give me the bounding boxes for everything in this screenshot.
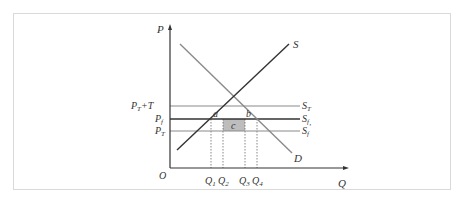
area-a-label: a — [213, 108, 218, 119]
demand-label: D — [293, 152, 302, 164]
q2-label: Q2 — [218, 175, 229, 188]
area-b-label: b — [246, 108, 251, 119]
q1-label: Q1 — [205, 175, 216, 188]
x-axis-arrow-icon — [343, 166, 349, 170]
price-label-pt: PT — [154, 125, 166, 138]
x-axis-label: Q — [338, 177, 346, 189]
st-label: ST — [302, 100, 312, 113]
y-axis-label: P — [156, 23, 164, 35]
q4-label: Q4 — [252, 175, 263, 188]
price-label-pt-plus-t: PT+T — [130, 100, 155, 113]
supply-demand-diagram: P Q O PT+T Pf PT ST Sf Sf′ S D a b c Q1 … — [0, 0, 464, 205]
q3-label: Q3 — [239, 175, 250, 188]
supply-label: S — [293, 38, 299, 50]
origin-label: O — [159, 170, 166, 181]
demand-curve — [180, 44, 292, 153]
area-c-label: c — [231, 120, 236, 131]
sf-prime-label: Sf′ — [302, 123, 311, 138]
y-axis-arrow-icon — [168, 24, 172, 30]
